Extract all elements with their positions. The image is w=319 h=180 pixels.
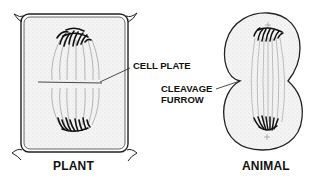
animal-cell	[224, 13, 303, 150]
plant-cell	[12, 13, 137, 161]
cleavage-furrow-label-line1: CLEAVAGE	[161, 84, 212, 94]
cytokinesis-diagram	[0, 0, 319, 180]
cleavage-furrow-label-line2: FURROW	[161, 95, 204, 105]
cell-plate-label: CELL PLATE	[133, 61, 191, 71]
plant-title: PLANT	[53, 160, 94, 172]
animal-title: ANIMAL	[242, 160, 290, 172]
